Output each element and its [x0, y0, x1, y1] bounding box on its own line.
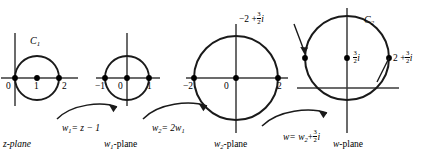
z-plane-tick-2: 2 — [62, 82, 67, 92]
z-plane-curve-label: C1 — [30, 36, 40, 48]
mapping-arrow-1 — [57, 104, 117, 119]
leader-line-minus2-label — [294, 24, 308, 55]
w-plane-label-minus2-plus-3halves-i: −2 +32i — [239, 11, 264, 26]
z-plane-name: z-plane — [3, 140, 31, 150]
w-plane-name: ww-plane-plane — [333, 140, 363, 150]
w2-plane-name: w2-plane — [214, 140, 247, 150]
w1-plane-tick-0: 0 — [118, 82, 123, 92]
mapping-3-label: w= w2+32i — [283, 129, 320, 144]
w-plane-point-minus2-plus-3halves-i — [302, 55, 308, 61]
w1-plane-tick-minus1: −1 — [95, 82, 105, 92]
w-plane-label-2-plus-3halves-i: 2 +32i — [393, 50, 412, 65]
w2-plane-tick-minus2: −2 — [183, 82, 193, 92]
w1-plane-group — [96, 33, 160, 106]
mapping-arrow-2 — [143, 103, 207, 119]
w-plane-label-center-3halves-i: 32i — [353, 50, 360, 65]
w-plane-point-center-3halves-i — [344, 55, 350, 61]
w-plane-group — [297, 8, 399, 133]
w-plane-curve-label: C2 — [364, 15, 374, 27]
mapping-arrow-3 — [262, 110, 327, 126]
mapping-2-label: w2= 2w1 — [152, 124, 185, 134]
complex-mapping-figure: C1 0 1 2 z-plane w1= z − 1 −1 0 1 w1-pla… — [0, 0, 421, 162]
mapping-1-label: w1= z − 1 — [62, 124, 100, 134]
w2-plane-group — [186, 24, 288, 133]
w1-plane-tick-1: 1 — [147, 82, 152, 92]
w2-plane-tick-0: 0 — [224, 82, 229, 92]
w2-plane-point-0 — [233, 75, 239, 81]
w1-plane-name: w1-plane — [104, 140, 137, 150]
z-plane-point-0 — [12, 75, 18, 81]
w1-plane-point-0 — [124, 75, 130, 81]
z-plane-tick-0: 0 — [6, 82, 11, 92]
w2-plane-tick-2: 2 — [277, 82, 282, 92]
z-plane-tick-1: 1 — [34, 82, 39, 92]
